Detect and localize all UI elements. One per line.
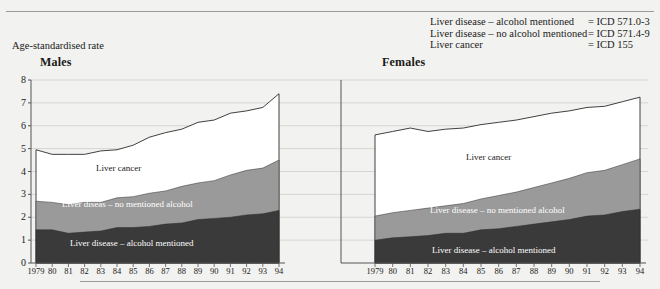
band-label-cancer-females: Liver cancer <box>466 152 511 162</box>
x-axis-tick-label: 84 <box>455 266 471 276</box>
x-axis-tick-label: 85 <box>473 266 489 276</box>
x-axis-tick-label: 86 <box>491 266 507 276</box>
chart-page: Liver disease – alcohol mentioned = ICD … <box>0 0 660 289</box>
x-axis-tick-label: 89 <box>544 266 560 276</box>
x-axis-tick-label: 82 <box>420 266 436 276</box>
x-axis-tick-label: 90 <box>561 266 577 276</box>
x-axis-tick-label: 91 <box>579 266 595 276</box>
x-axis-tick-label: 81 <box>402 266 418 276</box>
x-axis-tick-label: 87 <box>508 266 524 276</box>
stacked-area-plot-females <box>0 0 660 289</box>
x-axis-tick-label: 88 <box>526 266 542 276</box>
x-axis-tick-label: 92 <box>597 266 613 276</box>
x-axis-tick-label: 83 <box>438 266 454 276</box>
x-axis-tick-label: 93 <box>614 266 630 276</box>
band-label-no-alcohol-females: Liver disease – no mentioned alcohol <box>430 205 565 215</box>
x-axis-tick-label: 94 <box>632 266 648 276</box>
band-label-alcohol-females: Liver disease – alcohol mentioned <box>432 245 555 255</box>
x-axis-tick-label: 80 <box>385 266 401 276</box>
